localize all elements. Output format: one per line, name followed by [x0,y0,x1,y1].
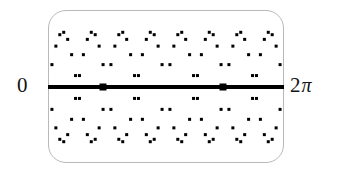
plot-point [149,31,152,34]
plot-point [117,138,120,141]
plot-point [204,38,207,41]
plot-point [121,31,124,34]
plot-point [54,45,57,48]
plot-point [70,53,73,56]
plot-point [220,63,223,66]
plot-point [109,63,112,66]
axis-marker-right [220,84,227,91]
plot-point [137,74,140,77]
plot-point [216,126,219,129]
plot-point [121,140,124,143]
plot-point [172,126,175,129]
plot-point [66,38,69,41]
plot-point [98,126,101,129]
plot-point [208,31,211,34]
plot-point [94,138,97,141]
plot-point [267,140,270,143]
plot-point [239,140,242,143]
plot-point [90,31,93,34]
plot-point [58,138,61,141]
plot-point [145,133,148,136]
plot-point [62,140,65,143]
plot-point [263,133,266,136]
upper-envelope-points [50,31,281,77]
axis-label-two-pi: 2π [290,75,312,96]
plot-point [275,45,278,48]
plot-point [74,97,77,100]
plot-point [192,97,195,100]
plot-point [149,140,152,143]
axis-marker-left [100,84,107,91]
plot-point [227,108,230,111]
plot-point [141,53,144,56]
plot-point [153,33,156,36]
plot-point [231,126,234,129]
plot-point [113,126,116,129]
plot-point [255,97,258,100]
plot-point [200,53,203,56]
plot-point [90,140,93,143]
plot-point [271,33,274,36]
plot-point [196,97,199,100]
plot-point [86,38,89,41]
plot-point [279,63,282,66]
plot-point [180,31,183,34]
plot-point [58,33,61,36]
plot-point [133,97,136,100]
plot-point [259,118,262,121]
plot-point [172,45,175,48]
plot-point [220,108,223,111]
plot-point [66,133,69,136]
graphing-calculator-figure: 0 2π [0,0,338,174]
plot-point [86,133,89,136]
plot-point [141,118,144,121]
plot-point [129,53,132,56]
plot-point [102,108,105,111]
plot-point [168,63,171,66]
plot-point [188,53,191,56]
plot-point [125,133,128,136]
plot-point [239,31,242,34]
plot-point [188,118,191,121]
plot-point [62,31,65,34]
plot-point [235,33,238,36]
plot-canvas [48,10,284,163]
plot-point [196,74,199,77]
plot-point [161,108,164,111]
plot-point [184,38,187,41]
plot-point [192,74,195,77]
axis-label-zero: 0 [17,75,28,96]
plot-point [157,45,160,48]
plot-point [74,74,77,77]
plot-point [161,63,164,66]
plot-point [247,118,250,121]
plot-point [102,63,105,66]
plot-point [204,133,207,136]
plot-point [263,38,266,41]
plot-point [184,133,187,136]
axis-line [48,85,284,89]
plot-point [243,133,246,136]
plot-point [157,126,160,129]
plot-point [279,108,282,111]
plot-point [82,53,85,56]
plot-point [78,74,81,77]
plot-point [212,33,215,36]
plot-point [82,118,85,121]
plot-point [176,138,179,141]
plot-point [231,45,234,48]
plot-point [109,108,112,111]
plot-point [255,74,258,77]
plot-point [275,126,278,129]
lower-envelope-points [50,97,281,143]
plot-point [125,38,128,41]
plot-point [98,45,101,48]
plot-point [247,53,250,56]
plot-point [145,38,148,41]
plot-point [117,33,120,36]
plot-point [113,45,116,48]
plot-point [168,108,171,111]
plot-point [94,33,97,36]
plot-point [227,63,230,66]
plot-point [176,33,179,36]
